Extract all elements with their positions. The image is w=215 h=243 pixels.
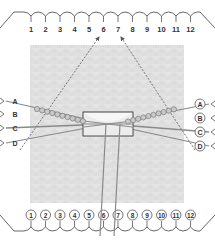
bead	[50, 110, 55, 115]
bead	[70, 116, 75, 121]
right-strand-end-icon	[211, 101, 215, 107]
left-strand-end-icon	[0, 98, 4, 104]
bottom-label-4: 4	[73, 212, 77, 219]
top-label-4: 4	[72, 25, 77, 34]
top-label-8: 8	[130, 25, 134, 34]
bottom-label-5: 5	[87, 212, 91, 219]
right-strand-end-icon	[211, 143, 215, 149]
bead	[80, 119, 85, 124]
bead	[156, 111, 161, 116]
bottom-label-3: 3	[58, 212, 62, 219]
top-label-6: 6	[101, 25, 105, 34]
bottom-label-11: 11	[173, 212, 180, 219]
top-label-9: 9	[145, 25, 149, 34]
left-strand-label-c: C	[12, 125, 17, 132]
top-label-10: 10	[157, 25, 165, 34]
top-label-2: 2	[43, 25, 47, 34]
bead	[151, 112, 156, 117]
bead	[40, 108, 45, 113]
left-strand-label-b: B	[12, 111, 17, 118]
bead	[161, 109, 166, 114]
left-strand-label-d: D	[12, 140, 17, 147]
right-strand-label-d: D	[197, 143, 202, 150]
left-strand-labels: ABCD	[0, 98, 18, 147]
left-strand-end-icon	[0, 111, 4, 117]
bead	[146, 114, 151, 119]
top-number-labels: 123456789101112	[29, 25, 195, 34]
bead	[60, 113, 65, 118]
bead	[75, 117, 80, 122]
bottom-label-7: 7	[116, 212, 120, 219]
left-strand-label-a: A	[12, 98, 17, 105]
top-label-7: 7	[116, 25, 120, 34]
right-strand-labels: ABCD	[195, 99, 215, 151]
top-label-3: 3	[58, 25, 62, 34]
bead	[65, 115, 70, 120]
bottom-label-9: 9	[145, 212, 149, 219]
top-label-1: 1	[29, 25, 33, 34]
bead	[34, 106, 39, 111]
right-strand-end-icon	[211, 115, 215, 121]
bead	[131, 118, 136, 123]
top-label-5: 5	[87, 25, 91, 34]
bead	[55, 112, 60, 117]
bead	[45, 109, 50, 114]
bottom-number-labels: 123456789101112	[26, 210, 196, 220]
bead	[166, 108, 171, 113]
right-strand-label-b: B	[197, 115, 202, 122]
left-strand-end-icon	[0, 125, 4, 131]
bead	[136, 116, 141, 121]
top-label-12: 12	[186, 25, 194, 34]
right-strand-end-icon	[211, 129, 215, 135]
threading-diagram: 123456789101112 123456789101112 ABCD ABC…	[0, 0, 215, 243]
left-strand-end-icon	[0, 140, 4, 146]
top-label-11: 11	[172, 25, 180, 34]
bottom-label-6: 6	[102, 212, 106, 219]
bottom-label-12: 12	[187, 212, 195, 219]
bottom-label-8: 8	[131, 212, 135, 219]
bottom-label-10: 10	[158, 212, 166, 219]
right-strand-label-a: A	[197, 101, 202, 108]
right-strand-label-c: C	[197, 129, 202, 136]
bead	[171, 107, 176, 112]
bottom-label-2: 2	[44, 212, 48, 219]
bottom-label-1: 1	[29, 212, 33, 219]
bead	[125, 119, 130, 124]
bead	[141, 115, 146, 120]
